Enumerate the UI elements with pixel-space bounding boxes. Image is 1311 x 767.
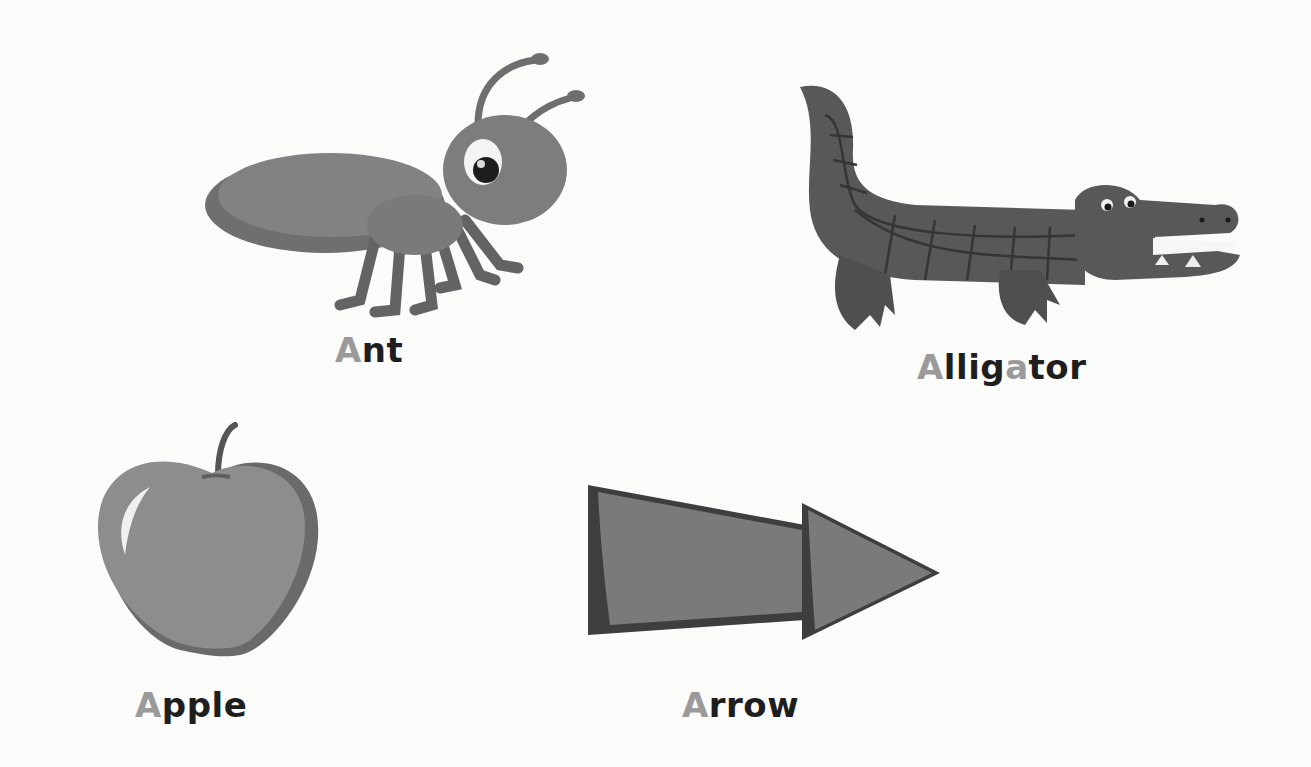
alligator-illustration [785, 75, 1255, 335]
apple-illustration [90, 415, 330, 665]
ant-illustration [200, 50, 590, 320]
arrow-card: Arrow [580, 480, 950, 760]
apple-card: Apple [90, 415, 340, 755]
ant-label: Ant [335, 330, 403, 370]
label-segment-end: tor [1029, 347, 1087, 387]
label-rest: rrow [709, 685, 799, 725]
alligator-card: Alligator [785, 75, 1255, 415]
label-first-letter: A [917, 347, 944, 387]
alligator-label: Alligator [917, 347, 1086, 387]
ant-card: Ant [200, 50, 590, 400]
arrow-illustration [580, 480, 950, 660]
label-first-letter: A [135, 685, 162, 725]
arrow-label: Arrow [682, 685, 799, 725]
apple-label: Apple [135, 685, 247, 725]
label-segment: llig [944, 347, 1005, 387]
label-first-letter: A [682, 685, 709, 725]
label-highlight-letter: a [1005, 347, 1028, 387]
label-rest: pple [162, 685, 247, 725]
label-rest: nt [362, 330, 403, 370]
label-first-letter: A [335, 330, 362, 370]
